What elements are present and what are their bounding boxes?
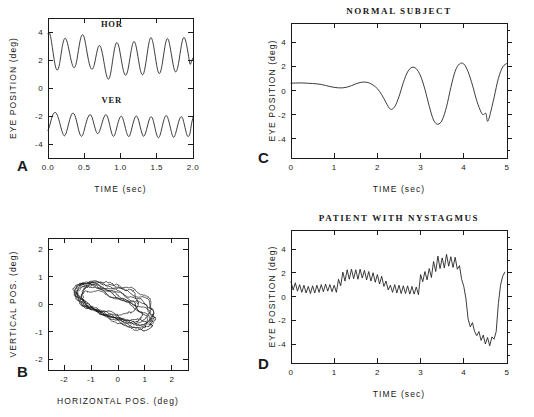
y-axis-title: EYE POSITION (deg) bbox=[267, 40, 277, 142]
y-tick-label: -4 bbox=[278, 135, 286, 144]
axes-frame bbox=[291, 230, 507, 363]
x-tick-label: -1 bbox=[87, 375, 95, 384]
x-axis-title: TIME (sec) bbox=[94, 184, 147, 194]
x-tick-label: 5 bbox=[505, 163, 510, 172]
x-tick-label: 3 bbox=[418, 368, 423, 377]
panel-b-plot: -2-1012210-1-2HORIZONTAL POS. (deg)VERTI… bbox=[0, 208, 267, 417]
y-tick-label: 2 bbox=[38, 56, 43, 65]
y-tick-label: -4 bbox=[35, 140, 43, 149]
y-axis-title: EYE POSITION (deg) bbox=[8, 37, 18, 139]
x-tick-label: 0 bbox=[289, 368, 294, 377]
panel-a: 0.00.51.01.52.0420-2-4HORVERTIME (sec)EY… bbox=[0, 0, 267, 208]
y-tick-label: 4 bbox=[281, 245, 286, 254]
x-tick-label: 0.0 bbox=[42, 163, 54, 172]
y-tick-label: 1 bbox=[38, 273, 43, 282]
axis-ticks bbox=[291, 230, 512, 363]
trace-eye-position bbox=[291, 63, 507, 124]
panel-a-letter: A bbox=[17, 158, 28, 173]
x-tick-label: 3 bbox=[418, 163, 423, 172]
plot-frame bbox=[48, 18, 193, 158]
panel-c: 012345420-2-4NORMAL SUBJECTTIME (sec)EYE… bbox=[267, 0, 534, 208]
trace-hor bbox=[48, 32, 193, 79]
y-tick-label: 4 bbox=[38, 28, 43, 37]
x-tick-label: 0 bbox=[116, 375, 121, 384]
y-tick-label: 0 bbox=[38, 84, 43, 93]
trace-ver bbox=[48, 112, 193, 137]
y-tick-label: 2 bbox=[281, 269, 286, 278]
x-axis-title: HORIZONTAL POS. (deg) bbox=[57, 396, 179, 406]
axis-ticks bbox=[48, 18, 193, 158]
x-tick-label: 2.0 bbox=[187, 163, 199, 172]
y-tick-label: -4 bbox=[278, 340, 286, 349]
y-axis-title: VERTICAL POS. (deg) bbox=[8, 251, 18, 358]
loop-trace bbox=[82, 281, 151, 320]
panel-title: PATIENT WITH NYSTAGMUS bbox=[319, 213, 479, 223]
y-tick-label: -2 bbox=[278, 111, 286, 120]
x-axis-title: TIME (sec) bbox=[373, 184, 426, 194]
y-tick-label: 2 bbox=[281, 62, 286, 71]
y-tick-label: -2 bbox=[35, 112, 43, 121]
x-tick-label: 2 bbox=[375, 368, 380, 377]
axes-frame bbox=[291, 23, 507, 158]
y-tick-label: -1 bbox=[35, 328, 43, 337]
plot-frame bbox=[48, 238, 188, 370]
x-tick-label: 1.5 bbox=[151, 163, 163, 172]
axis-ticks bbox=[48, 238, 188, 370]
axes-frame bbox=[48, 18, 193, 158]
trace-eye-position bbox=[291, 254, 505, 345]
x-tick-label: 1 bbox=[332, 163, 337, 172]
plot-frame bbox=[291, 23, 507, 158]
y-tick-label: -2 bbox=[278, 316, 286, 325]
panel-b-letter: B bbox=[17, 364, 28, 379]
y-tick-label: 2 bbox=[38, 245, 43, 254]
x-tick-label: 2 bbox=[375, 163, 380, 172]
y-tick-label: 0 bbox=[281, 87, 286, 96]
y-tick-label: 4 bbox=[281, 38, 286, 47]
x-tick-label: 4 bbox=[461, 368, 466, 377]
x-axis-title: TIME (sec) bbox=[373, 389, 426, 399]
panel-b: -2-1012210-1-2HORIZONTAL POS. (deg)VERTI… bbox=[0, 208, 267, 417]
figure-root: 0.00.51.01.52.0420-2-4HORVERTIME (sec)EY… bbox=[0, 0, 534, 417]
axes-frame bbox=[48, 238, 188, 370]
x-tick-label: 2 bbox=[169, 375, 174, 384]
x-tick-label: -2 bbox=[60, 375, 68, 384]
y-tick-label: 0 bbox=[281, 293, 286, 302]
x-tick-label: 4 bbox=[461, 163, 466, 172]
x-tick-label: 0.5 bbox=[78, 163, 90, 172]
x-tick-label: 0 bbox=[289, 163, 294, 172]
trace-label-hor: HOR bbox=[101, 19, 123, 29]
y-tick-label: -2 bbox=[35, 355, 43, 364]
trace-label-ver: VER bbox=[102, 95, 122, 105]
panel-d-letter: D bbox=[258, 356, 269, 371]
panel-d-plot: 012345420-2-4PATIENT WITH NYSTAGMUSTIME … bbox=[267, 208, 534, 417]
axis-ticks bbox=[291, 23, 512, 158]
panel-title: NORMAL SUBJECT bbox=[346, 6, 452, 16]
y-tick-label: 0 bbox=[38, 300, 43, 309]
panel-a-plot: 0.00.51.01.52.0420-2-4HORVERTIME (sec)EY… bbox=[0, 0, 267, 208]
plot-frame bbox=[291, 230, 507, 363]
x-tick-label: 1 bbox=[332, 368, 337, 377]
x-tick-label: 1 bbox=[142, 375, 147, 384]
x-tick-label: 1.0 bbox=[114, 163, 126, 172]
lissajous-loops bbox=[73, 281, 156, 331]
panel-c-letter: C bbox=[258, 150, 269, 165]
x-tick-label: 5 bbox=[505, 368, 510, 377]
panel-d: 012345420-2-4PATIENT WITH NYSTAGMUSTIME … bbox=[267, 208, 534, 417]
y-axis-title: EYE POSITION (deg) bbox=[267, 246, 277, 348]
panel-c-plot: 012345420-2-4NORMAL SUBJECTTIME (sec)EYE… bbox=[267, 0, 534, 208]
